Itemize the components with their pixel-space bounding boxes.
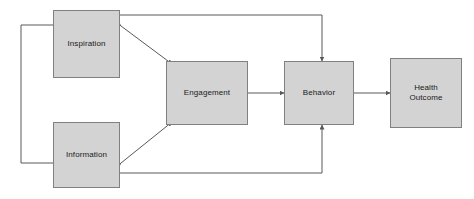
node-engagement-label: Engagement xyxy=(182,88,232,98)
connector-inspiration-information-link xyxy=(21,25,53,163)
node-information-label: Information xyxy=(64,150,109,160)
node-health-outcome[interactable]: Health Outcome xyxy=(390,58,462,128)
node-inspiration[interactable]: Inspiration xyxy=(53,10,120,78)
diagram-canvas: Inspiration Information Engagement Behav… xyxy=(0,0,474,199)
node-behavior[interactable]: Behavior xyxy=(284,61,354,125)
node-information[interactable]: Information xyxy=(53,122,120,188)
connector-inspiration-engagement xyxy=(121,26,172,64)
node-engagement[interactable]: Engagement xyxy=(166,61,248,125)
connector-information-behavior xyxy=(120,125,322,173)
node-behavior-label: Behavior xyxy=(301,88,337,98)
connector-inspiration-behavior xyxy=(120,15,322,61)
node-inspiration-label: Inspiration xyxy=(65,39,107,49)
node-health-outcome-label: Health Outcome xyxy=(407,83,444,103)
connector-information-engagement xyxy=(121,122,172,163)
